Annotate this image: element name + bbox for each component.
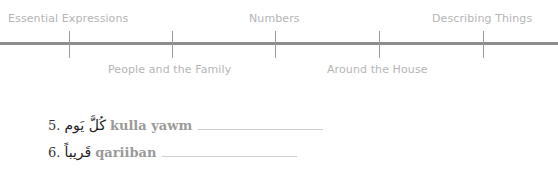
- timeline-label-describing-things: Describing Things: [432, 12, 532, 25]
- transliteration: kulla yawm: [110, 118, 192, 133]
- timeline-tick: [379, 31, 380, 58]
- exercise-number: 6.: [48, 145, 60, 160]
- timeline-label-essential-expressions: Essential Expressions: [8, 12, 128, 25]
- timeline-tick: [483, 31, 484, 58]
- answer-blank[interactable]: [198, 128, 323, 130]
- timeline-label-people-and-family: People and the Family: [108, 63, 231, 76]
- exercise-number: 5.: [48, 118, 60, 133]
- arabic-phrase: قَريباً: [64, 144, 91, 160]
- timeline-tick: [172, 31, 173, 58]
- answer-blank[interactable]: [162, 155, 297, 157]
- timeline-tick: [275, 31, 276, 58]
- timeline-tick: [69, 31, 70, 58]
- timeline-label-numbers: Numbers: [249, 12, 300, 25]
- exercise-item-6: 6. قَريباً qariiban: [48, 144, 297, 160]
- timeline-label-around-the-house: Around the House: [327, 63, 428, 76]
- timeline-line: [0, 42, 558, 45]
- transliteration: qariiban: [95, 145, 156, 160]
- arabic-phrase: كُلَّ يَوم: [64, 117, 106, 133]
- exercise-item-5: 5. كُلَّ يَوم kulla yawm: [48, 117, 323, 133]
